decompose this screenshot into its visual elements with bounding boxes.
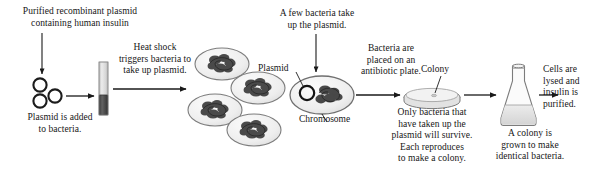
caption-purified-plasmid: Purified recombinant plasmid containing … xyxy=(6,6,154,29)
transformed-bacterium xyxy=(290,76,354,114)
caption-heat-shock: Heat shock triggers bacteria to take up … xyxy=(100,42,210,77)
flask-liquid xyxy=(501,105,536,125)
free-plasmid-rings xyxy=(33,78,61,107)
colony-spot xyxy=(431,94,436,96)
petri-dish xyxy=(404,76,460,109)
caption-plasmid-added: Plasmid is added to bacteria. xyxy=(2,112,118,135)
caption-few-bacteria: A few bacteria take up the plasmid. xyxy=(262,8,372,31)
bacterium-cell xyxy=(227,114,281,146)
label-plasmid: Plasmid xyxy=(258,63,289,75)
bacterium-cell xyxy=(231,72,285,104)
label-chromosome: Chromosome xyxy=(299,114,350,126)
insulin-production-diagram: Purified recombinant plasmid containing … xyxy=(0,0,600,183)
caption-colony-grown: A colony is grown to make identical bact… xyxy=(470,128,590,163)
caption-cells-lysed: Cells are lysed and insulin is purified. xyxy=(543,64,599,110)
erlenmeyer-flask xyxy=(501,64,536,125)
label-colony: Colony xyxy=(421,64,449,76)
